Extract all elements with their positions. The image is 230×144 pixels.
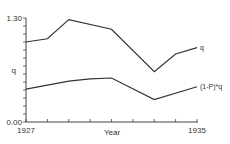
line-chart: 1.30 q 0.00 1927 Year 1935 q (1-P)*q [0,0,230,144]
series-q-label: q [200,44,204,52]
x-axis-label: Year [104,128,121,137]
y-axis-label: q [12,66,16,75]
series-1-p-q-line [26,78,197,100]
axes [23,18,198,122]
x-tick-left-label: 1927 [17,126,35,135]
y-tick-top-label: 1.30 [6,14,22,23]
x-tick-right-label: 1935 [188,126,206,135]
series-1-p-q-label: (1-P)*q [200,83,222,91]
series-q-line [26,20,197,72]
